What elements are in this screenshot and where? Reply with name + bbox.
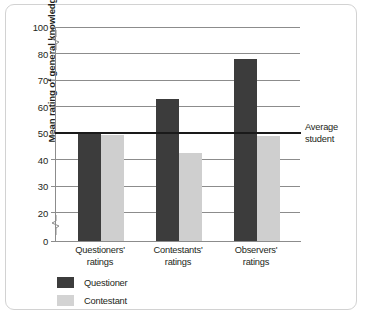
plot-area [56, 27, 300, 241]
bar-contestant-observers-ratings [257, 136, 280, 241]
y-tick-40: 40 [18, 155, 48, 166]
gridline-80 [56, 53, 300, 54]
average-student-annotation-line2: student [305, 134, 338, 146]
chart-figure: 100 80 70 60 50 40 30 20 0 Mean rating o… [0, 0, 369, 321]
y-tick-0: 0 [18, 236, 48, 247]
legend-swatch-questioner-icon [57, 277, 74, 288]
x-category-label-contestants-line2: ratings [141, 257, 215, 269]
y-tick-20: 20 [18, 208, 48, 219]
legend-item-contestant: Contestant [57, 293, 127, 308]
legend-item-questioner: Questioner [57, 275, 127, 290]
average-student-annotation: Average student [305, 122, 338, 145]
bar-questioner-observers-ratings [234, 59, 257, 241]
x-category-label-contestants: Contestants' ratings [141, 245, 215, 268]
y-tick-60: 60 [18, 102, 48, 113]
gridline-100 [56, 27, 300, 28]
x-category-label-observers: Observers' ratings [219, 245, 293, 268]
legend-swatch-contestant-icon [57, 295, 74, 306]
chart-legend: Questioner Contestant [57, 275, 127, 311]
x-category-label-observers-line2: ratings [219, 257, 293, 269]
bar-questioner-contestants-ratings [156, 99, 179, 241]
x-category-label-questioners: Questioners' ratings [63, 245, 137, 268]
x-category-label-questioners-line2: ratings [63, 257, 137, 269]
legend-label-contestant: Contestant [84, 296, 127, 306]
bar-contestant-contestants-ratings [179, 153, 202, 241]
y-axis-tick-labels: 100 80 70 60 50 40 30 20 0 [14, 0, 48, 321]
x-category-label-questioners-line1: Questioners' [63, 245, 137, 257]
bar-questioner-questioners-ratings [78, 133, 101, 241]
y-tick-50: 50 [18, 128, 48, 139]
gridline-70 [56, 80, 300, 81]
y-tick-70: 70 [18, 75, 48, 86]
x-category-label-contestants-line1: Contestants' [141, 245, 215, 257]
bar-contestant-questioners-ratings [101, 135, 124, 241]
y-tick-30: 30 [18, 181, 48, 192]
y-tick-80: 80 [18, 49, 48, 60]
y-tickmark-0 [51, 241, 56, 242]
x-category-label-observers-line1: Observers' [219, 245, 293, 257]
average-student-line [55, 132, 301, 134]
y-tick-100: 100 [18, 22, 48, 33]
legend-label-questioner: Questioner [84, 278, 127, 288]
average-student-annotation-line1: Average [305, 122, 338, 134]
x-axis-line [56, 241, 301, 242]
